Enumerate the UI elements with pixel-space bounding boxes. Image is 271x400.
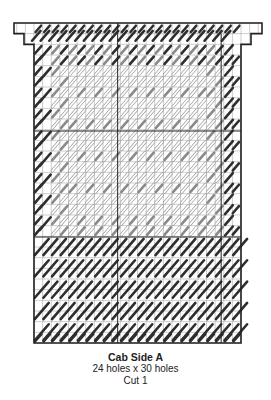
stitch-chart xyxy=(0,0,271,350)
stitches xyxy=(32,26,247,342)
pattern-title: Cab Side A xyxy=(0,351,271,363)
pattern-size: 24 holes x 30 holes xyxy=(0,363,271,375)
cut-count: Cut 1 xyxy=(0,375,271,387)
